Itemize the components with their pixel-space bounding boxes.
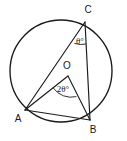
vertex-label-o: O bbox=[63, 60, 71, 71]
angle-label-two-theta: 2θ° bbox=[57, 84, 70, 94]
vertex-label-c: C bbox=[84, 4, 91, 15]
vertex-label-a: A bbox=[15, 113, 22, 124]
vertex-label-b: B bbox=[90, 124, 97, 135]
circle-outline bbox=[10, 20, 112, 122]
geometry-canvas: θ° 2θ° A B C O bbox=[0, 0, 127, 141]
chord-cb-line bbox=[85, 22, 90, 120]
geometry-diagram: θ° 2θ° A B C O bbox=[0, 0, 127, 141]
angle-label-theta: θ° bbox=[76, 36, 84, 46]
radius-ob-line bbox=[68, 76, 90, 120]
